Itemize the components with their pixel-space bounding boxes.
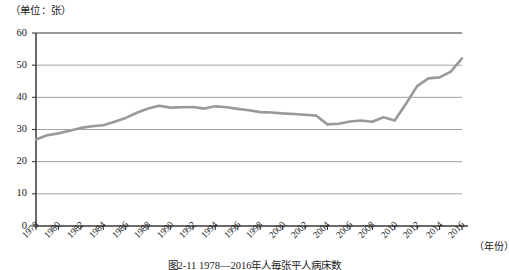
figure-caption: 图2-11 1978—2016年人毎张平人病床数 — [0, 257, 509, 270]
plot-area: 6050403020100 19781980198219841986198819… — [0, 0, 509, 270]
y-tick-label: 60 — [3, 28, 27, 38]
y-tick-label: 40 — [3, 92, 27, 102]
y-tick-label: 50 — [3, 60, 27, 70]
figure-container: （单位：张） 6050403020100 1978198019821984198… — [0, 0, 509, 270]
y-tick-label: 30 — [3, 124, 27, 134]
series-line-every-10k-beds — [36, 58, 462, 139]
axis-ticks-group — [32, 33, 462, 230]
y-tick-label: 20 — [3, 156, 27, 166]
x-axis-name-label: （年份） — [474, 238, 509, 253]
y-tick-label: 10 — [3, 188, 27, 198]
